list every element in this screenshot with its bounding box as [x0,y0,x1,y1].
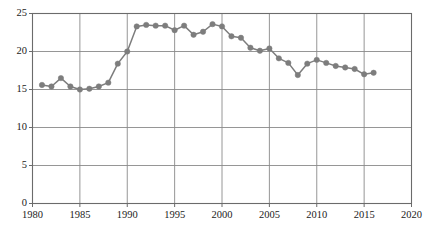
data-point-marker [39,82,44,87]
x-axis-tick-label: 2005 [249,210,289,221]
y-axis-tick-label: 10 [3,122,27,133]
data-point-marker [257,48,262,53]
y-axis-tick-label: 5 [3,160,27,171]
data-point-marker [115,61,120,66]
data-point-marker [58,75,63,80]
data-point-marker [191,32,196,37]
data-point-marker [153,23,158,28]
data-point-marker [68,84,73,89]
x-axis-tick-label: 1995 [155,210,195,221]
data-point-marker [125,49,130,54]
data-point-marker [305,61,310,66]
data-point-marker [172,28,177,33]
data-point-marker [162,23,167,28]
x-axis-tick-label: 1990 [107,210,147,221]
data-series [39,21,376,92]
x-axis-tick-label: 2010 [297,210,337,221]
data-point-marker [77,87,82,92]
data-point-marker [96,84,101,89]
series-line [42,24,374,89]
x-axis-tick-label: 2020 [392,210,432,221]
data-point-marker [106,80,111,85]
x-axis-tick-label: 1985 [60,210,100,221]
data-point-marker [248,45,253,50]
data-point-marker [286,60,291,65]
grid-lines [33,14,412,204]
data-point-marker [238,35,243,40]
data-point-marker [229,34,234,39]
chart-plot-area [0,0,435,235]
x-axis-tick-label: 1980 [13,210,53,221]
data-point-marker [314,57,319,62]
data-point-marker [276,56,281,61]
data-point-marker [324,60,329,65]
data-point-marker [342,65,347,70]
x-axis-tick-label: 2000 [202,210,242,221]
data-point-marker [87,86,92,91]
data-point-marker [181,23,186,28]
x-axis-tick-label: 2015 [344,210,384,221]
data-point-marker [267,46,272,51]
y-axis-tick-label: 0 [3,198,27,209]
line-chart: 0510152025198019851990199520002005201020… [0,0,435,235]
data-point-marker [352,66,357,71]
y-axis-tick-label: 20 [3,46,27,57]
data-point-marker [219,24,224,29]
data-point-marker [361,72,366,77]
y-axis-tick-label: 15 [3,84,27,95]
tick-marks [29,14,412,208]
data-point-marker [134,24,139,29]
data-point-marker [295,72,300,77]
data-point-marker [200,29,205,34]
data-point-marker [49,84,54,89]
data-point-marker [210,21,215,26]
data-point-marker [333,63,338,68]
data-point-marker [371,70,376,75]
data-point-marker [144,22,149,27]
y-axis-tick-label: 25 [3,8,27,19]
